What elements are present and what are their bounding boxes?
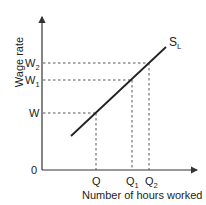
y-axis-label: Wage rate [13, 37, 25, 87]
y-tick-w: W [29, 107, 40, 119]
x-tick-q1: Q1 [126, 175, 139, 190]
labour-supply-curve [71, 47, 166, 136]
curve-label: SL [169, 35, 182, 51]
y-tick-w2: W2 [25, 57, 40, 72]
x-tick-q: Q [92, 175, 101, 187]
x-axis-label: Number of hours worked [82, 189, 202, 201]
y-tick-w1: W1 [25, 74, 40, 89]
labour-supply-diagram: SL Wage rate W2 W1 W 0 Q Q1 Q2 Number of… [0, 0, 206, 205]
x-tick-q2: Q2 [145, 175, 158, 190]
origin-label: 0 [31, 164, 37, 176]
